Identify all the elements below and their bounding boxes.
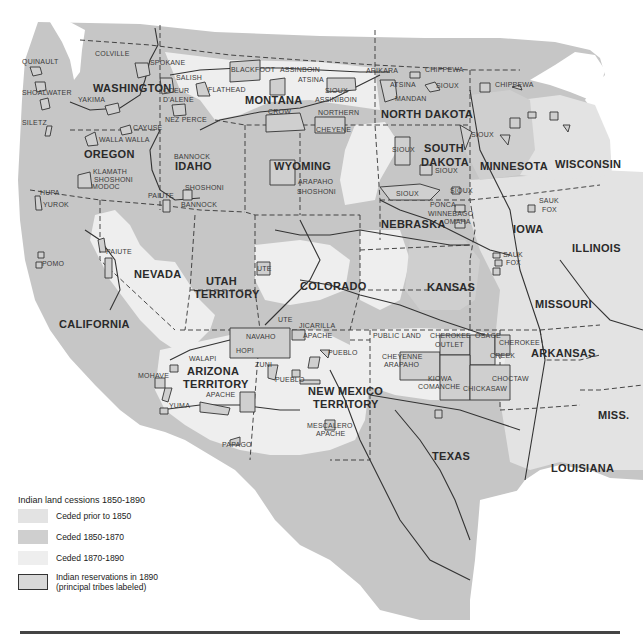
state-label: IOWA <box>513 223 544 235</box>
tribe-label: FOX <box>542 206 557 213</box>
tribe-label: MODOC <box>92 183 120 190</box>
legend-label: Ceded prior to 1850 <box>56 511 131 521</box>
state-label: MISSOURI <box>535 298 592 310</box>
tribe-label: SHOSHONI <box>297 188 336 195</box>
tribe-label: HOPI <box>236 347 254 354</box>
tribe-label: PAIUTE <box>106 248 132 255</box>
tribe-label: YUMA <box>169 402 190 409</box>
state-label: WISCONSIN <box>555 158 621 170</box>
state-label: MINNESOTA <box>480 160 548 172</box>
tribe-label: D'ALENE <box>163 96 194 103</box>
tribe-label: SILETZ <box>22 119 47 126</box>
tribe-label: CAYUSE <box>133 124 163 131</box>
tribe-label: CHIPPEWA <box>425 66 464 73</box>
tribe-label: CHICKASAW <box>463 385 507 392</box>
tribe-label: HUPA <box>40 189 60 196</box>
tribe-label: CHIPPEWA <box>495 81 534 88</box>
state-label: WASHINGTON <box>93 82 172 94</box>
state-label: LOUISIANA <box>551 462 614 474</box>
tribe-label: CROW <box>268 108 291 115</box>
tribe-label: CHEYENE <box>316 126 351 133</box>
legend-label: Indian reservations in 1890 <box>56 572 158 582</box>
tribe-label: SHOALWATER <box>22 89 72 96</box>
tribe-label: WINNEBAGO <box>428 210 474 217</box>
tribe-label: COEUR <box>163 87 189 94</box>
tribe-label: SPOKANE <box>150 59 185 66</box>
tribe-label: SAUK <box>539 197 559 204</box>
legend-item-reservations: Indian reservations in 1890 (principal t… <box>18 571 218 593</box>
legend-swatch <box>18 509 48 523</box>
tribe-label: SIOUX <box>435 167 458 174</box>
tribe-label: ASSINBOIN <box>280 66 320 73</box>
map-legend: Indian land cessions 1850-1890 Ceded pri… <box>18 495 218 598</box>
tribe-label: FOX <box>506 259 521 266</box>
state-label: OREGON <box>84 148 135 160</box>
state-label: ARIZONA <box>187 365 239 377</box>
tribe-label: ASSINIBOIN <box>315 96 357 103</box>
tribe-label: OMAHA <box>444 218 471 225</box>
legend-title: Indian land cessions 1850-1890 <box>18 495 218 505</box>
tribe-label: UTE <box>278 316 293 323</box>
state-label: WYOMING <box>274 160 331 172</box>
tribe-label: ZUNI <box>255 361 272 368</box>
tribe-label: CHOCTAW <box>492 375 529 382</box>
tribe-label: NEZ PERCE <box>165 116 207 123</box>
tribe-label: YUROK <box>43 201 69 208</box>
state-label: MONTANA <box>245 94 303 106</box>
tribe-label: PAIUTE <box>148 192 174 199</box>
gulf-of-mexico <box>470 482 643 640</box>
tribe-label: NAVAHO <box>246 333 276 340</box>
tribe-label: SIOUX <box>396 190 419 197</box>
tribe-label: COLVILLE <box>95 50 130 57</box>
tribe-label: ATSINA <box>390 81 416 88</box>
tribe-label: SAUK <box>503 251 523 258</box>
ceded-1850-1870-ks <box>405 240 480 310</box>
legend-swatch <box>18 530 48 544</box>
tribe-label: ARIKARA <box>366 67 398 74</box>
tribe-label: PUEBLO <box>275 376 305 383</box>
tribe-label: CHEROKEE <box>430 332 471 339</box>
state-label: KANSAS <box>427 281 475 293</box>
state-label: SOUTH <box>424 142 464 154</box>
tribe-label: CHEYENNE <box>382 353 423 360</box>
tribe-label: APACHE <box>206 391 236 398</box>
state-label: NEBRASKA <box>381 218 446 230</box>
tribe-label: PUBLIC LAND <box>373 332 421 339</box>
legend-label-group: Indian reservations in 1890 (principal t… <box>56 572 158 592</box>
tribe-label: COMANCHE <box>418 383 461 390</box>
tribe-label: FLATHEAD <box>208 86 246 93</box>
tribe-label: OSAGE <box>475 332 501 339</box>
tribe-label: UTE <box>257 265 272 272</box>
tribe-label: SHOSHONI <box>94 176 133 183</box>
tribe-label: MESCALERO <box>307 422 353 429</box>
tribe-label: POMO <box>42 260 65 267</box>
state-label: ILLINOIS <box>572 242 621 254</box>
legend-swatch <box>18 551 48 565</box>
state-label: TERRITORY <box>313 398 379 410</box>
tribe-label: WALAPI <box>189 355 216 362</box>
tribe-label: APACHE <box>303 332 333 339</box>
tribe-label: OUTLET <box>435 341 464 348</box>
state-label: NEW MEXICO <box>308 385 383 397</box>
tribe-label: PUEBLO <box>328 349 358 356</box>
legend-label: Ceded 1850-1870 <box>56 532 124 542</box>
tribe-label: CREEK <box>490 352 515 359</box>
map-figure: WASHINGTON OREGON IDAHO MONTANA WYOMING … <box>0 0 643 640</box>
tribe-label: ARAPAHO <box>298 178 333 185</box>
legend-item-ceded-1850-1870: Ceded 1850-1870 <box>18 529 218 545</box>
tribe-label: PAPAGO <box>222 441 252 448</box>
legend-swatch <box>18 574 48 590</box>
tribe-label: ATSINA <box>298 76 324 83</box>
tribe-label: JICARILLA <box>299 322 336 329</box>
tribe-label: BANNOCK <box>174 153 210 160</box>
tribe-label: SIOUX <box>325 87 348 94</box>
legend-sublabel: (principal tribes labeled) <box>56 582 158 592</box>
tribe-label: SIOUX <box>436 82 459 89</box>
state-label: MISS. <box>598 409 629 421</box>
state-label: IDAHO <box>175 160 212 172</box>
tribe-label: MOHAVE <box>138 372 169 379</box>
tribe-label: BANNOCK <box>181 201 217 208</box>
tribe-label: CHEROKEE <box>499 339 540 346</box>
tribe-label: SALISH <box>176 74 202 81</box>
tribe-label: SHOSHONI <box>185 184 224 191</box>
